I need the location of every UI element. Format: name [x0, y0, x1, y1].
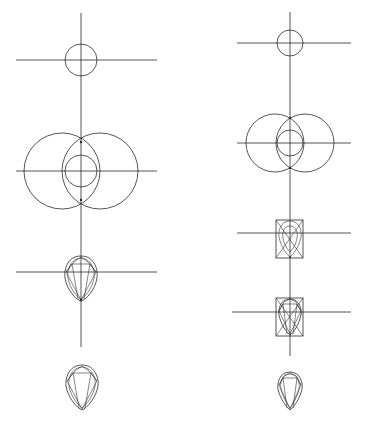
left-step2-intersection-top: [80, 141, 82, 143]
right-step3-point: [289, 256, 291, 258]
diagram-svg: [0, 0, 365, 422]
left-step-1-circle-cross: [16, 44, 157, 76]
left-step4-facet-left: [67, 373, 79, 408]
left-step2-intersection-bottom: [80, 199, 82, 201]
left-step4-facet-right: [85, 373, 97, 408]
left-step-2-vesica: [16, 133, 157, 209]
right-step2-intersection-top: [289, 117, 291, 119]
left-step3-point: [80, 299, 82, 301]
left-step-3-pear-facets: [16, 256, 157, 301]
right-step-3-boxed-construction: [237, 220, 351, 258]
right-construction: [232, 12, 351, 410]
right-step-1-circle-cross: [237, 30, 351, 56]
right-step-5-pear-final: [278, 372, 302, 410]
left-step-4-pear-final: [66, 365, 98, 410]
left-step3-facet-right-outer: [81, 262, 96, 300]
right-step2-intersection-bottom: [289, 167, 291, 169]
right-step-2-vesica: [237, 114, 351, 172]
right-step-4-boxed-facets: [232, 298, 351, 336]
right-step5-crown-top: [284, 373, 296, 376]
gem-construction-diagram: [0, 0, 365, 422]
left-construction: [16, 13, 157, 410]
left-step3-facet-left-outer: [66, 262, 81, 300]
